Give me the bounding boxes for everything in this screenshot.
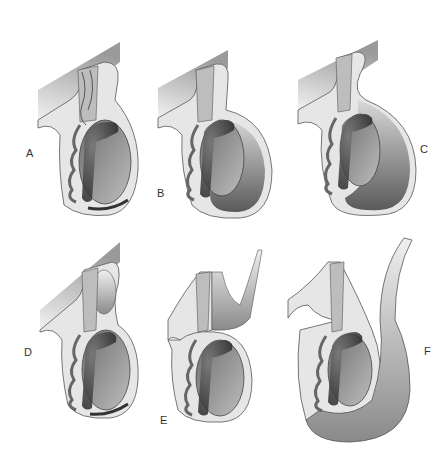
panel-label-f: F [424,345,431,357]
panel-b [158,50,272,218]
panel-label-c: C [420,143,428,155]
panel-label-d: D [24,346,32,358]
spermatic-cord [336,54,352,112]
panel-label-a: A [26,147,34,159]
panel-label-b: B [157,187,164,199]
panel-a [38,42,138,216]
panel-d [40,242,138,418]
communicating-hydrocele [212,250,262,330]
panel-f [288,238,412,442]
panel-e [168,250,262,422]
spermatic-cord [196,66,214,122]
spermatic-cord [196,272,210,332]
spermatic-cord [82,268,98,332]
panel-c [298,40,416,216]
anatomical-diagram: A B C D [0,0,444,450]
panel-label-e: E [160,414,167,426]
spermatic-cord [330,262,344,332]
